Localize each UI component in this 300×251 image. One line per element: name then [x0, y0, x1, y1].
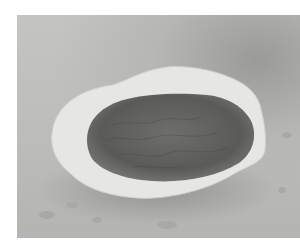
- shell-illustration: [17, 15, 300, 238]
- photograph: [17, 15, 300, 238]
- shell-interior: [87, 94, 254, 182]
